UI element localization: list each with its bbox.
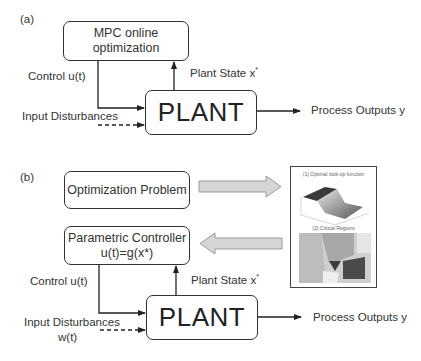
output-label-b: Process Outputs y xyxy=(313,311,407,323)
optimization-problem-label: Optimization Problem xyxy=(67,183,187,198)
critical-regions-plot-icon xyxy=(299,233,371,283)
thumb-caption-1: (1) Optimal look-up function xyxy=(291,171,376,177)
control-label-a: Control u(t) xyxy=(28,70,86,82)
disturbance-label-a: Input Disturbances xyxy=(22,110,118,122)
plant-label-a: PLANT xyxy=(158,97,244,128)
left-block-arrow xyxy=(200,233,282,254)
panel-b-tag: (b) xyxy=(20,171,34,183)
mpc-optimization-box: MPC online optimization xyxy=(63,21,189,61)
disturbance-label-b: Input Disturbances xyxy=(24,316,120,328)
output-label-a: Process Outputs y xyxy=(311,104,405,116)
plant-box-a: PLANT xyxy=(145,90,257,135)
controller-line1: Parametric Controller xyxy=(68,231,186,246)
plant-label-b: PLANT xyxy=(159,302,245,333)
mpc-box-line2: optimization xyxy=(93,41,160,56)
thumb-caption-2: (2) Critical Regions xyxy=(291,225,376,231)
disturbance-sub-b: w(t) xyxy=(58,331,77,343)
solution-thumbnail: (1) Optimal look-up function (2) Critica… xyxy=(290,166,377,288)
panel-a-tag: (a) xyxy=(20,13,34,25)
control-label-b: Control u(t) xyxy=(30,275,88,287)
optimization-problem-box: Optimization Problem xyxy=(64,171,190,209)
plant-state-label-a: Plant State x* xyxy=(190,66,258,79)
mpc-box-line1: MPC online xyxy=(94,26,159,41)
plant-state-label-b: Plant State x* xyxy=(191,273,259,286)
surface-plot-icon xyxy=(295,179,373,227)
parametric-controller-box: Parametric Controller u(t)=g(x*) xyxy=(64,226,190,265)
controller-line2: u(t)=g(x*) xyxy=(101,246,153,261)
right-block-arrow xyxy=(199,176,281,197)
plant-box-b: PLANT xyxy=(146,295,258,340)
